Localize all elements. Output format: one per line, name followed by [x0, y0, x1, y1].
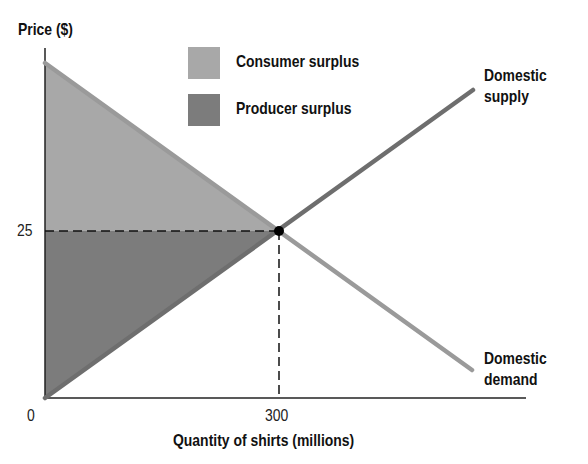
x-tick-0: 0: [27, 406, 35, 426]
supply-label-line1: Domestic: [484, 66, 547, 86]
legend-consumer-swatch: [188, 47, 220, 79]
demand-label-line2: demand: [484, 370, 537, 390]
equilibrium-point: [274, 226, 284, 236]
demand-label-line1: Domestic: [484, 349, 547, 369]
legend-producer-label: Producer surplus: [236, 99, 351, 119]
y-axis-label: Price ($): [18, 20, 73, 40]
x-axis-label: Quantity of shirts (millions): [173, 431, 354, 451]
y-tick-25: 25: [17, 221, 33, 241]
legend-consumer-label: Consumer surplus: [236, 52, 359, 72]
supply-label-line2: supply: [484, 87, 529, 107]
x-tick-300: 300: [265, 406, 288, 426]
legend-producer-swatch: [188, 94, 220, 126]
